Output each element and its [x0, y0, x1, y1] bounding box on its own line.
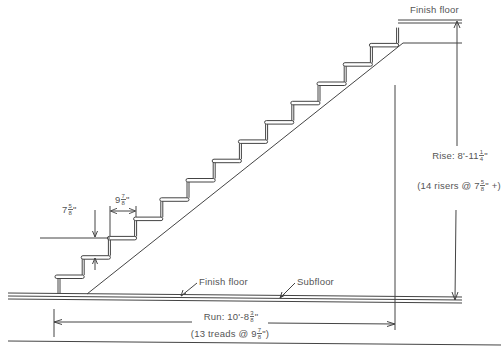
rise-title-suffix: ": [484, 150, 488, 161]
stair-tread: [55, 275, 84, 279]
frac-num: 7: [121, 193, 126, 200]
riser-dimension-label: 758": [62, 204, 77, 217]
stair-tread: [291, 101, 320, 105]
stair-tread: [186, 179, 215, 183]
rise-dim-line-lower: [455, 210, 456, 300]
stair-tread: [265, 121, 294, 125]
bottom-finish-floor-label: Finish floor: [199, 277, 248, 287]
run-dimension-detail: (13 treads @ 978"): [180, 328, 280, 341]
stringer-line: [87, 43, 403, 294]
subfloor-label: Subfloor: [297, 277, 334, 287]
run-dimension-title: Run: 10'-838": [186, 311, 276, 324]
rise-dimension-detail: (14 risers @ 758" +): [414, 180, 501, 193]
tread-dimension-label: 978": [115, 194, 130, 207]
frac-den: 4: [479, 156, 484, 162]
riser-dim-whole: 7: [62, 204, 67, 215]
run-detail-fraction: 78: [257, 327, 262, 340]
stair-drawing: [0, 0, 501, 347]
bottom-floor-lines: [8, 293, 462, 303]
stair-tread: [212, 159, 241, 163]
rise-title-prefix: Rise: 8'-11: [432, 150, 479, 161]
frac-den: 8: [68, 210, 73, 216]
run-title-suffix: ": [255, 311, 259, 322]
run-detail-prefix: (13 treads @ 9: [191, 328, 257, 339]
run-detail-suffix: "): [262, 328, 269, 339]
rise-detail-suffix: " +): [485, 180, 501, 191]
rise-dimension-title: Rise: 8'-1114": [420, 150, 500, 163]
stair-tread: [238, 140, 267, 144]
stair-tread: [369, 43, 398, 47]
frac-den: 8: [257, 334, 262, 340]
tread-dim-whole: 9: [115, 194, 120, 205]
page-bottom-rule: [8, 341, 501, 345]
run-title-fraction: 38: [250, 310, 255, 323]
frac-den: 8: [121, 200, 126, 206]
stair-steps: [55, 28, 399, 294]
riser-dim-suffix: ": [73, 204, 77, 215]
riser-dim-fraction: 58: [68, 203, 73, 216]
stair-tread: [317, 82, 346, 86]
run-title-prefix: Run: 10'-8: [204, 311, 250, 322]
frac-num: 7: [257, 327, 262, 334]
stair-tread: [134, 217, 163, 221]
stair-tread: [160, 198, 189, 202]
run-dim-right: [268, 323, 395, 324]
stair-tread: [343, 63, 372, 66]
stair-tread: [107, 236, 136, 240]
rise-detail-prefix: (14 risers @ 7: [417, 180, 480, 191]
frac-num: 3: [250, 310, 255, 317]
tread-dim-suffix: ": [126, 194, 130, 205]
top-finish-floor-label: Finish floor: [410, 5, 459, 15]
frac-den: 8: [480, 186, 485, 192]
rise-detail-fraction: 58: [480, 179, 485, 192]
frac-den: 8: [250, 317, 255, 323]
tread-dim-fraction: 78: [121, 193, 126, 206]
rise-title-fraction: 14: [479, 149, 484, 162]
frac-num: 1: [479, 149, 484, 156]
frac-num: 5: [480, 179, 485, 186]
frac-num: 5: [68, 203, 73, 210]
top-floor-lines: [398, 20, 462, 23]
